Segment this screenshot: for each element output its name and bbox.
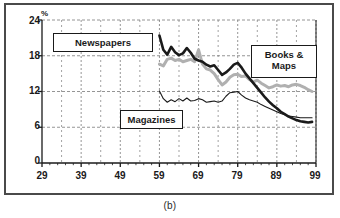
y-tick-label-6: 6 [18, 120, 40, 131]
series-label-newspapers: Newspapers [53, 33, 153, 52]
x-tick-label-49: 49 [108, 170, 132, 181]
y-tick-label-12: 12 [18, 85, 40, 96]
series-label-magazines: Magazines [120, 110, 183, 129]
x-tick-label-59: 59 [147, 170, 171, 181]
x-tick-label-99: 99 [303, 170, 327, 181]
y-tick-label-0: 0 [18, 155, 40, 166]
x-tick-label-29: 29 [30, 170, 54, 181]
figure-panel: % 24 18 12 6 0 29 39 49 59 69 79 89 99 N… [0, 0, 340, 218]
y-tick-label-18: 18 [18, 50, 40, 61]
x-tick-label-69: 69 [186, 170, 210, 181]
y-tick-label-24: 24 [18, 15, 40, 26]
x-tick-label-89: 89 [264, 170, 288, 181]
chart-canvas [0, 0, 340, 218]
y-axis-unit: % [41, 9, 48, 18]
series-label-books-maps: Books &Maps [251, 45, 317, 78]
series-label-books-line2: Maps [272, 60, 296, 71]
series-label-books-line1: Books & [265, 49, 304, 60]
x-tick-label-79: 79 [225, 170, 249, 181]
x-tick-label-39: 39 [69, 170, 93, 181]
figure-caption: (b) [0, 200, 340, 211]
